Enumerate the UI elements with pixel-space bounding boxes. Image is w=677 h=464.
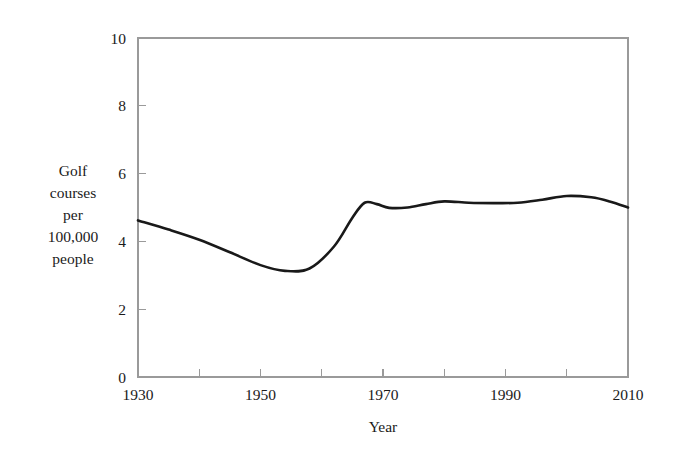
x-tick-label: 1930 xyxy=(123,386,154,403)
y-tick-label: 0 xyxy=(118,369,126,386)
y-tick-label: 4 xyxy=(118,233,126,250)
y-axis-title-line: 100,000 xyxy=(48,228,99,245)
data-series-line xyxy=(138,196,628,272)
y-tick-label: 10 xyxy=(111,30,127,47)
y-axis-title-line: Golf xyxy=(59,162,88,179)
x-axis-title: Year xyxy=(369,418,398,435)
x-tick-label: 2010 xyxy=(613,386,644,403)
y-axis-title: Golfcoursesper100,000people xyxy=(48,162,99,267)
x-axis-tick-labels: 19301950197019902010 xyxy=(123,386,644,403)
chart-container: 0246810 19301950197019902010 Golfcourses… xyxy=(0,0,677,464)
y-axis-ticks xyxy=(138,106,146,309)
y-axis-title-line: people xyxy=(52,250,93,267)
x-tick-label: 1950 xyxy=(245,386,276,403)
y-axis-title-line: courses xyxy=(50,184,97,201)
y-tick-label: 8 xyxy=(118,97,126,114)
line-chart: 0246810 19301950197019902010 Golfcourses… xyxy=(0,0,677,464)
x-axis-ticks xyxy=(199,369,567,377)
y-axis-title-line: per xyxy=(63,206,84,223)
x-tick-label: 1990 xyxy=(490,386,521,403)
y-tick-label: 2 xyxy=(118,301,126,318)
y-axis-tick-labels: 0246810 xyxy=(111,30,127,386)
y-tick-label: 6 xyxy=(118,165,126,182)
x-tick-label: 1970 xyxy=(368,386,399,403)
